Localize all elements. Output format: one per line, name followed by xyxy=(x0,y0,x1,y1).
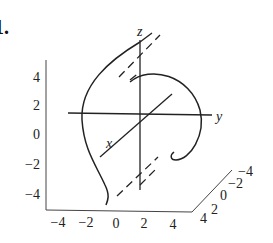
svg-text:−2: −2 xyxy=(79,215,94,230)
plot-3d: 4 2 0 −2 −4 −4 −2 0 2 4 4 2 0 −2 −4 xyxy=(0,0,273,243)
z-axis-label: z xyxy=(136,24,143,39)
svg-text:4: 4 xyxy=(170,217,177,232)
svg-text:−4: −4 xyxy=(238,164,253,179)
dashed-lines xyxy=(117,35,160,196)
x-axis-label: x xyxy=(105,136,113,151)
svg-text:0: 0 xyxy=(33,127,40,142)
svg-text:4: 4 xyxy=(200,211,207,226)
svg-text:2: 2 xyxy=(33,98,40,113)
svg-text:−4: −4 xyxy=(51,215,66,230)
y-axis-label: y xyxy=(214,109,223,124)
axes xyxy=(68,40,212,190)
bottom-tick-labels: −4 −2 0 2 4 xyxy=(51,215,177,232)
svg-text:4: 4 xyxy=(33,70,40,85)
figure-number: 1. xyxy=(0,16,9,39)
svg-text:−4: −4 xyxy=(25,187,40,202)
svg-text:0: 0 xyxy=(220,188,227,203)
svg-text:0: 0 xyxy=(113,216,120,231)
figure-1: 1. 4 2 0 −2 −4 −4 −2 0 2 4 4 2 0 xyxy=(0,0,273,243)
bounding-box xyxy=(46,60,232,212)
z-tick-labels: 4 2 0 −2 −4 xyxy=(25,70,40,202)
svg-text:2: 2 xyxy=(141,216,148,231)
svg-text:−2: −2 xyxy=(25,157,40,172)
space-curve-left xyxy=(82,42,140,205)
svg-text:2: 2 xyxy=(211,202,218,217)
space-curve-right xyxy=(130,74,201,160)
